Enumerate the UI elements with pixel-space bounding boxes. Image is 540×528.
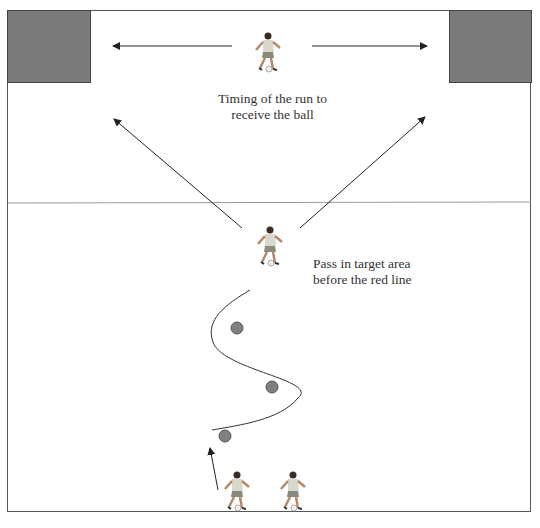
drill-drawing [0, 0, 540, 528]
red-line [8, 202, 531, 203]
pass-label: Pass in target area before the red line [313, 256, 412, 288]
timing-label: Timing of the run to receive the ball [200, 91, 345, 123]
